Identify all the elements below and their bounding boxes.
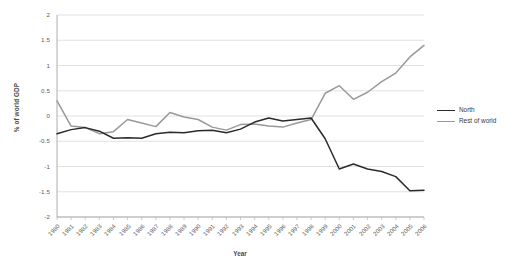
series-line-rest-of-world [57, 45, 424, 133]
x-axis-ticks [57, 217, 424, 220]
y-axis-title: % of world GDP [13, 73, 20, 143]
chart-canvas [0, 0, 520, 267]
chart-legend: North Rest of world [437, 105, 496, 127]
y-tick-label: -2 [28, 213, 50, 220]
series-line-north [57, 118, 424, 191]
legend-swatch-north-icon [437, 110, 455, 111]
y-tick-label: 1.5 [28, 36, 50, 43]
legend-swatch-rest-of-world-icon [437, 121, 455, 122]
line-chart: 21.510.50-0.5-1-1.5-2 198019811982198319… [0, 0, 520, 267]
legend-item-rest-of-world[interactable]: Rest of world [437, 116, 496, 127]
y-tick-label: -1.5 [28, 188, 50, 195]
y-tick-label: 0 [28, 112, 50, 119]
y-tick-label: 2 [28, 11, 50, 18]
y-tick-label: -1 [28, 163, 50, 170]
legend-item-north[interactable]: North [437, 105, 496, 116]
y-tick-label: 1 [28, 62, 50, 69]
legend-label-north: North [459, 107, 475, 113]
y-tick-label: 0.5 [28, 87, 50, 94]
gridlines [57, 15, 424, 217]
legend-label-rest-of-world: Rest of world [459, 118, 496, 124]
x-axis-title: Year [195, 250, 285, 257]
y-tick-label: -0.5 [28, 137, 50, 144]
